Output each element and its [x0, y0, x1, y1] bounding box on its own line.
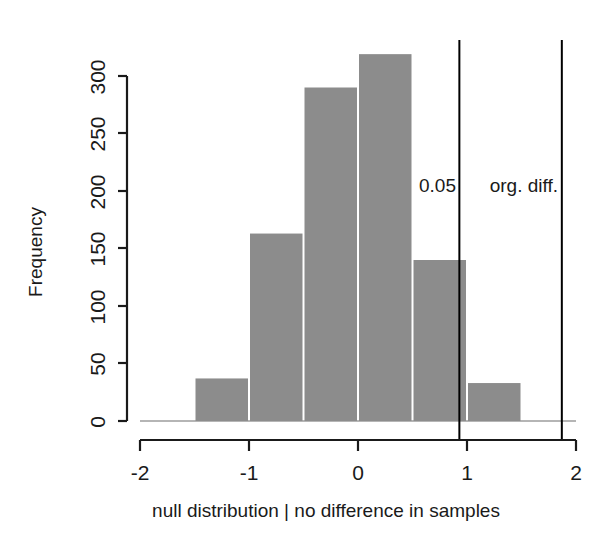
x-tick-label-neg2: -2 — [110, 461, 170, 485]
histogram-bars — [196, 54, 521, 421]
annotation-lines — [459, 40, 561, 440]
histogram-bar — [414, 260, 467, 421]
x-tick-label-neg1: -1 — [219, 461, 279, 485]
y-axis — [118, 76, 127, 421]
histogram-bar — [196, 378, 249, 421]
histogram-bar — [305, 88, 358, 422]
histogram-bar — [250, 234, 303, 421]
observed-difference-label: org. diff. — [438, 175, 558, 197]
y-tick-label-0: 0 — [86, 392, 110, 452]
x-axis-title: null distribution | no difference in sam… — [106, 500, 546, 522]
x-tick-label-2: 2 — [546, 461, 606, 485]
histogram-bar — [468, 383, 521, 421]
x-axis — [140, 440, 576, 451]
x-tick-label-0: 0 — [328, 461, 388, 485]
y-axis-title: Frequency — [25, 172, 47, 332]
y-tick-label-300: 300 — [86, 42, 110, 112]
x-tick-label-1: 1 — [437, 461, 497, 485]
y-tick-label-50: 50 — [86, 334, 110, 394]
histogram-bar — [359, 54, 412, 421]
histogram-plot: 0 50 100 150 200 250 300 -2 -1 0 1 2 Fre… — [0, 0, 613, 552]
